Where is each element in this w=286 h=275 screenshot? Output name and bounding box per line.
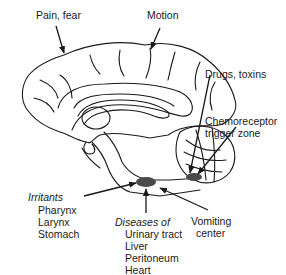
label-irritant-item: Stomach <box>38 229 79 240</box>
arrow-vomiting-center <box>160 188 208 210</box>
label-motion: Motion <box>147 10 179 21</box>
arrow-pain-fear <box>56 26 64 53</box>
chemoreceptor-trigger-zone-shape <box>186 173 202 181</box>
vomiting-center-shape <box>136 177 156 187</box>
label-irritant-item: Larynx <box>38 217 70 228</box>
label-irritant-item: Pharynx <box>38 205 77 216</box>
label-vomiting: Vomiting <box>191 216 231 227</box>
cerebrum-outline <box>22 43 235 143</box>
label-disease-item: Heart <box>125 265 151 275</box>
label-irritants: Irritants <box>28 192 63 203</box>
label-pain-fear: Pain, fear <box>36 10 81 21</box>
arrow-irritants <box>84 183 136 196</box>
label-disease-item: Peritoneum <box>125 253 179 264</box>
label-disease-item: Urinary tract <box>125 229 182 240</box>
label-disease-item: Liver <box>125 241 148 252</box>
label-center: center <box>196 228 225 239</box>
label-drugs-toxins: Drugs, toxins <box>205 69 266 80</box>
label-trigger-zone: trigger zone <box>205 128 260 139</box>
arrow-motion <box>151 28 160 49</box>
label-diseases-of: Diseases of <box>115 217 170 228</box>
label-chemoreceptor: Chemoreceptor <box>205 116 277 127</box>
